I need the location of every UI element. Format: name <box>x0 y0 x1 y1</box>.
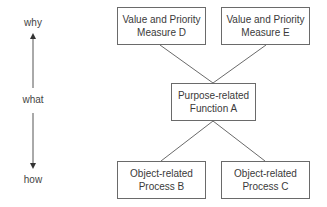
node-process-c-line1: Object-related <box>234 167 297 180</box>
node-function-a-line2: Function A <box>190 102 237 115</box>
edge-d-to-a <box>160 45 213 83</box>
edge-a-to-b <box>161 121 213 161</box>
node-measure-d-line2: Measure D <box>137 26 186 39</box>
node-measure-d-line1: Value and Priority <box>122 13 200 26</box>
node-process-b-line2: Process B <box>139 180 185 193</box>
node-function-a-line1: Purpose-related <box>178 89 249 102</box>
node-process-b-line1: Object-related <box>130 167 193 180</box>
axis-label-how: how <box>13 174 53 185</box>
edge-e-to-a <box>213 45 266 83</box>
edge-a-to-c <box>213 121 265 161</box>
axis-label-why: why <box>13 17 53 28</box>
axis-label-what: what <box>13 94 53 105</box>
node-measure-d: Value and Priority Measure D <box>117 7 206 45</box>
node-process-b: Object-related Process B <box>117 161 206 199</box>
node-measure-e-line2: Measure E <box>241 26 289 39</box>
node-process-c: Object-related Process C <box>221 161 310 199</box>
node-function-a: Purpose-related Function A <box>171 83 256 121</box>
node-measure-e: Value and Priority Measure E <box>221 7 310 45</box>
node-process-c-line2: Process C <box>242 180 288 193</box>
node-measure-e-line1: Value and Priority <box>226 13 304 26</box>
